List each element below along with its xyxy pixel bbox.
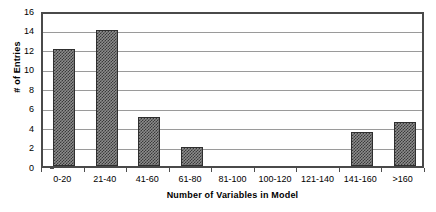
- bar-slot: [128, 14, 171, 166]
- bar-slot: [86, 14, 129, 166]
- y-tick-label: 12: [14, 47, 34, 56]
- x-tick-mark: [254, 168, 255, 172]
- x-tick-label: 81-100: [211, 174, 254, 185]
- bar: [181, 147, 203, 167]
- bar-slot: [171, 14, 214, 166]
- bar-slot: [298, 14, 341, 166]
- x-tick-label: 21-40: [84, 174, 127, 185]
- bar-chart: # of Entries 0246810121416 0-2021-4041-6…: [0, 0, 436, 212]
- y-tick-label: 0: [14, 164, 34, 173]
- bar: [53, 49, 75, 166]
- y-tick-label: 6: [14, 105, 34, 114]
- x-tick-label: 61-80: [169, 174, 212, 185]
- x-tick-label: 100-120: [254, 174, 297, 185]
- y-tick-label: 14: [14, 27, 34, 36]
- x-tick-label: 0-20: [41, 174, 84, 185]
- x-tick-mark: [424, 168, 425, 172]
- y-tick-label: 2: [14, 144, 34, 153]
- plot-area: [41, 12, 424, 168]
- y-tick-label: 8: [14, 86, 34, 95]
- y-axis-tick-labels: 0246810121416: [14, 12, 34, 168]
- x-tick-label: >160: [381, 174, 424, 185]
- x-axis-tick-marks: [41, 168, 424, 173]
- bar: [138, 117, 160, 166]
- x-tick-mark: [41, 168, 42, 172]
- x-tick-mark: [84, 168, 85, 172]
- x-tick-mark: [169, 168, 170, 172]
- bar-slot: [341, 14, 384, 166]
- x-tick-mark: [339, 168, 340, 172]
- x-tick-mark: [211, 168, 212, 172]
- y-tick-label: 10: [14, 66, 34, 75]
- bar-slot: [383, 14, 426, 166]
- y-tick-label: 16: [14, 8, 34, 17]
- x-tick-label: 141-160: [339, 174, 382, 185]
- x-tick-mark: [296, 168, 297, 172]
- bar: [351, 132, 373, 166]
- x-axis-tick-labels: 0-2021-4041-6061-8081-100100-120121-1401…: [41, 174, 424, 188]
- bar-slot: [256, 14, 299, 166]
- bar: [96, 30, 118, 167]
- x-axis-title: Number of Variables in Model: [41, 190, 424, 200]
- x-tick-mark: [381, 168, 382, 172]
- x-tick-label: 121-140: [296, 174, 339, 185]
- x-tick-label: 41-60: [126, 174, 169, 185]
- bar-slot: [43, 14, 86, 166]
- bars-layer: [43, 14, 422, 166]
- x-tick-mark: [126, 168, 127, 172]
- bar: [394, 122, 416, 166]
- bar-slot: [213, 14, 256, 166]
- y-tick-label: 4: [14, 125, 34, 134]
